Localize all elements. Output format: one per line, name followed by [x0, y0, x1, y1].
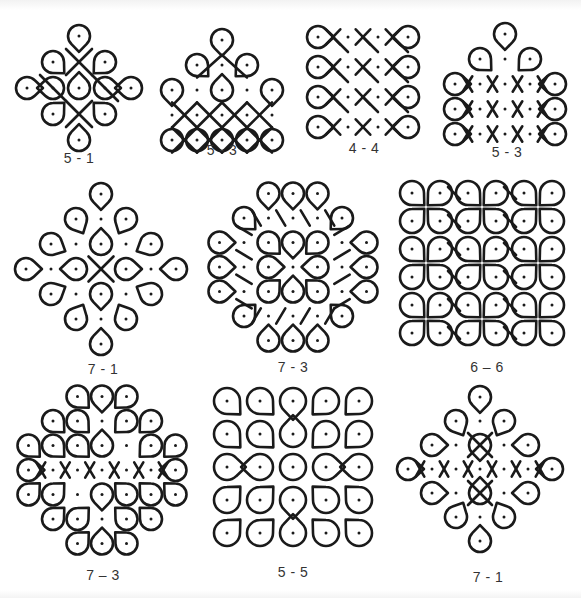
caption-fig4: 5 - 3	[492, 144, 523, 160]
kolam-5-1	[0, 0, 581, 598]
caption-fig2: 5 - 3	[207, 142, 238, 158]
caption-fig9: 5 - 5	[278, 564, 309, 580]
caption-fig10: 7 - 1	[473, 569, 504, 585]
caption-fig6: 7 - 3	[278, 359, 309, 375]
caption-fig7: 6 – 6	[470, 359, 504, 375]
caption-fig5: 7 - 1	[88, 361, 119, 377]
caption-fig1: 5 - 1	[64, 150, 95, 166]
kolam-drawing	[0, 0, 581, 598]
caption-fig3: 4 - 4	[349, 140, 380, 156]
caption-fig8: 7 – 3	[86, 567, 120, 583]
